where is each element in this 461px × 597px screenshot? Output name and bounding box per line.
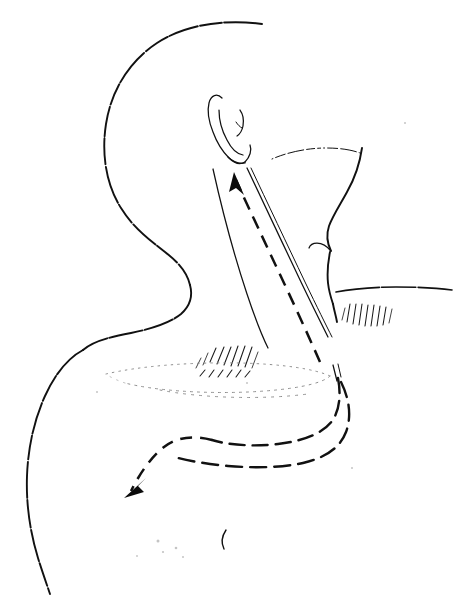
- anatomy-illustration: Lateral head and neck anatomical line dr…: [0, 0, 461, 597]
- figure-root: Lateral head and neck anatomical line dr…: [0, 0, 461, 597]
- figure-background: [0, 0, 461, 597]
